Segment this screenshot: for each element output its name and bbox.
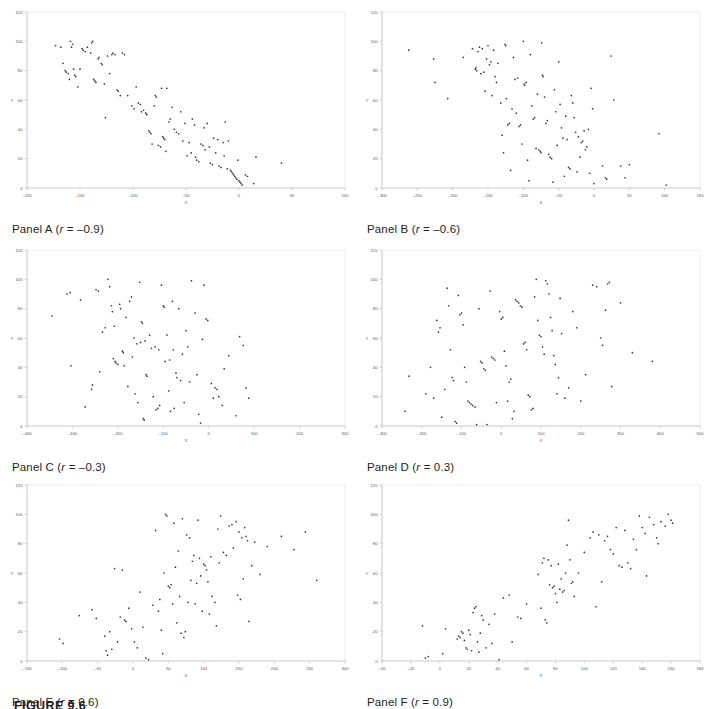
data-point bbox=[547, 120, 549, 122]
data-point bbox=[485, 647, 487, 649]
data-point bbox=[550, 317, 552, 319]
data-point bbox=[105, 650, 107, 652]
data-point bbox=[550, 565, 552, 567]
plot-area-c: 020406080100120–400–300–200–100010020030… bbox=[0, 238, 354, 450]
data-point bbox=[210, 556, 212, 558]
data-point bbox=[461, 631, 463, 633]
panel-caption-d: Panel D (r = 0.3) bbox=[367, 461, 454, 473]
y-tick-label: 40 bbox=[373, 600, 378, 605]
data-point bbox=[512, 418, 514, 420]
y-axis-title: Y bbox=[11, 98, 14, 103]
data-point bbox=[170, 584, 172, 586]
data-point bbox=[255, 156, 257, 158]
data-point bbox=[504, 350, 506, 352]
data-point bbox=[163, 572, 165, 574]
data-point bbox=[636, 549, 638, 551]
data-point bbox=[120, 308, 122, 310]
data-point bbox=[154, 346, 156, 348]
data-point bbox=[127, 95, 129, 97]
data-point bbox=[552, 181, 554, 183]
data-point bbox=[218, 562, 220, 564]
y-tick-label: 0 bbox=[375, 424, 378, 429]
data-point bbox=[266, 546, 268, 548]
data-point bbox=[425, 657, 427, 659]
data-point bbox=[105, 117, 107, 119]
data-point bbox=[51, 315, 53, 317]
data-point bbox=[228, 355, 230, 357]
data-point bbox=[486, 424, 488, 426]
data-point bbox=[172, 349, 174, 351]
data-point bbox=[436, 320, 438, 322]
data-point bbox=[164, 139, 166, 141]
data-point bbox=[117, 90, 119, 92]
data-point bbox=[554, 364, 556, 366]
x-tick-label: –250 bbox=[413, 193, 423, 198]
data-point bbox=[187, 601, 189, 603]
data-point bbox=[476, 70, 478, 72]
x-tick-label: 0 bbox=[132, 666, 135, 671]
data-point bbox=[589, 537, 591, 539]
x-tick-label: –40 bbox=[379, 666, 387, 671]
data-point bbox=[75, 76, 77, 78]
data-point bbox=[81, 48, 83, 50]
data-point bbox=[254, 541, 256, 543]
data-point bbox=[605, 309, 607, 311]
data-point bbox=[112, 311, 114, 313]
y-axis-title: Y bbox=[11, 571, 14, 576]
data-point bbox=[59, 638, 61, 640]
data-point bbox=[135, 86, 137, 88]
data-point bbox=[160, 146, 162, 148]
data-point bbox=[521, 143, 523, 145]
data-point bbox=[122, 350, 124, 352]
data-point bbox=[553, 355, 555, 357]
data-point bbox=[87, 46, 89, 48]
data-point bbox=[549, 156, 551, 158]
data-point bbox=[141, 111, 143, 113]
data-point bbox=[62, 643, 64, 645]
data-point bbox=[451, 377, 453, 379]
data-point bbox=[124, 54, 126, 56]
data-point bbox=[153, 105, 155, 107]
data-point bbox=[543, 353, 545, 355]
panel-caption-c: Panel C (r = –0.3) bbox=[12, 461, 106, 473]
data-point bbox=[609, 281, 611, 283]
data-point bbox=[442, 653, 444, 655]
data-point bbox=[569, 559, 571, 561]
data-point bbox=[155, 96, 157, 98]
data-point bbox=[212, 164, 214, 166]
plot-area-d: 020406080100120–300–200–1000100200300400… bbox=[355, 238, 709, 450]
data-point bbox=[572, 581, 574, 583]
data-point bbox=[198, 413, 200, 415]
data-point bbox=[665, 184, 667, 186]
data-point bbox=[521, 306, 523, 308]
data-point bbox=[182, 353, 184, 355]
y-tick-label: 0 bbox=[20, 186, 23, 191]
data-point bbox=[115, 362, 117, 364]
data-point bbox=[511, 108, 513, 110]
data-point bbox=[543, 557, 545, 559]
data-point bbox=[149, 334, 151, 336]
data-point bbox=[491, 95, 493, 97]
data-point bbox=[169, 118, 171, 120]
x-tick-label: –50 bbox=[183, 193, 191, 198]
data-point bbox=[220, 515, 222, 517]
data-points bbox=[408, 40, 667, 185]
data-point bbox=[281, 162, 283, 164]
data-point bbox=[170, 410, 172, 412]
x-tick-label: –50 bbox=[555, 193, 563, 198]
x-tick-label: –300 bbox=[377, 193, 387, 198]
x-tick-label: 0 bbox=[238, 193, 241, 198]
data-point bbox=[104, 83, 106, 85]
data-point bbox=[489, 64, 491, 66]
data-point bbox=[251, 565, 253, 567]
y-tick-label: 80 bbox=[18, 68, 23, 73]
data-point bbox=[122, 52, 124, 54]
x-tick-label: 100 bbox=[581, 666, 589, 671]
data-point bbox=[515, 299, 517, 301]
data-point bbox=[173, 522, 175, 524]
data-point bbox=[186, 534, 188, 536]
data-point bbox=[200, 422, 202, 424]
data-point bbox=[184, 123, 186, 125]
data-point bbox=[210, 162, 212, 164]
y-tick-label: 20 bbox=[373, 629, 378, 634]
